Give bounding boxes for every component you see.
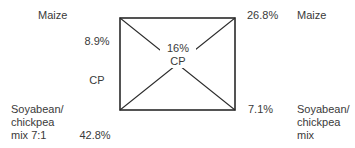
- top-left-value: 8.9%: [80, 35, 114, 48]
- top-right-value: 26.8%: [247, 9, 278, 22]
- bottom-left-value-block: 42.8% CP: [76, 103, 114, 148]
- top-left-feed: Maize: [38, 9, 67, 22]
- bottom-left-value: 42.8%: [76, 129, 114, 142]
- center-unit: CP: [160, 55, 196, 68]
- top-right-feed: Maize: [297, 9, 326, 22]
- top-left-unit: CP: [80, 74, 114, 87]
- center-value: 16%: [160, 42, 196, 55]
- top-left-value-block: 8.9% CP: [80, 9, 114, 100]
- bottom-right-value: 7.1%: [248, 103, 273, 116]
- bottom-left-feed: Soyabean/ chickpea mix 7:1: [11, 103, 64, 142]
- center-target: 16% CP: [160, 42, 196, 68]
- bottom-right-feed: Soyabean/ chickpea mix: [297, 103, 350, 142]
